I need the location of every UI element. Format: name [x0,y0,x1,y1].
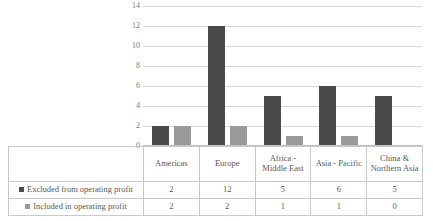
bar[interactable] [319,86,336,146]
table-header-row: AmericasEuropeAfrica - Middle EastAsia -… [9,147,423,182]
table-value-cell: 0 [367,199,423,216]
legend-entry[interactable]: Excluded from operating profit [9,182,144,199]
table-corner-cell [9,147,144,182]
y-axis-tick-label: 10 [132,42,140,50]
table-column-header: Americas [144,147,200,182]
table-value-cell: 2 [144,182,200,199]
legend-label: Included in operating profit [33,201,127,211]
bar[interactable] [264,96,281,146]
table-column-header: Europe [199,147,255,182]
bar[interactable] [174,126,191,146]
legend-entry[interactable]: Included in operating profit [9,199,144,216]
table-value-cell: 2 [199,199,255,216]
y-axis-tick-label: 12 [132,22,140,30]
bar[interactable] [208,26,225,146]
bar[interactable] [152,126,169,146]
table-column-header: Asia - Pacific [311,147,367,182]
y-axis-tick-label: 14 [132,2,140,10]
table-value-cell: 1 [255,199,311,216]
y-axis-tick-label: 4 [136,102,140,110]
table-value-cell: 1 [311,199,367,216]
table-value-cell: 5 [255,182,311,199]
table-value-cell: 2 [144,199,200,216]
table-column-header: Africa - Middle East [255,147,311,182]
y-axis: 14121086420 [119,6,143,146]
y-axis-tick-label: 6 [136,82,140,90]
chart-plot-wrapper: 14121086420 [119,6,422,146]
chart-data-table: AmericasEuropeAfrica - Middle EastAsia -… [8,146,423,216]
y-axis-tick-label: 2 [136,122,140,130]
table-row: Excluded from operating profit212565 [9,182,423,199]
table-value-cell: 12 [199,182,255,199]
legend-swatch-icon [19,187,24,192]
bar-chart-with-data-table: 14121086420 AmericasEuropeAfrica - Middl… [0,0,433,221]
bars-layer [143,6,422,146]
bar[interactable] [375,96,392,146]
bar-group [366,6,422,146]
bar-group [310,6,366,146]
legend-swatch-icon [25,204,30,209]
table-value-cell: 5 [367,182,423,199]
bar-group [199,6,255,146]
table-column-header: China & Northern Asia [367,147,423,182]
table-row: Included in operating profit22110 [9,199,423,216]
bar-group [255,6,311,146]
plot-area [143,6,422,146]
legend-label: Excluded from operating profit [27,184,133,194]
bar[interactable] [230,126,247,146]
bar-group [143,6,199,146]
y-axis-tick-label: 8 [136,62,140,70]
table-value-cell: 6 [311,182,367,199]
